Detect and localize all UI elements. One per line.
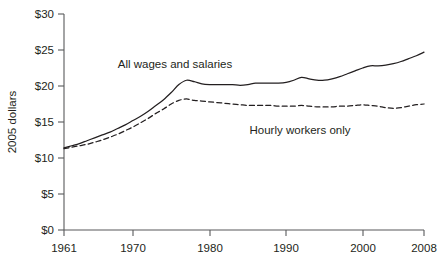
y-tick-label: $10 — [35, 152, 54, 164]
series-label-all-wages-and-salaries: All wages and salaries — [118, 58, 233, 70]
x-tick-label: 2008 — [411, 242, 437, 254]
y-tick-label: $20 — [35, 80, 54, 92]
x-tick-label: 1961 — [51, 242, 77, 254]
x-tick-label: 1970 — [120, 242, 146, 254]
series-annotations: All wages and salaries Hourly workers on… — [118, 58, 351, 136]
x-axis-tick-labels: 1961 1970 1980 1990 2000 2008 — [51, 242, 437, 254]
x-tick-label: 1990 — [273, 242, 299, 254]
y-tick-label: $25 — [35, 44, 54, 56]
line-chart: $30 $25 $20 $15 $10 $5 $0 2005 dollars — [0, 0, 446, 264]
y-axis-tick-labels: $30 $25 $20 $15 $10 $5 $0 — [35, 8, 54, 236]
y-tick-label: $15 — [35, 116, 54, 128]
y-axis-title: 2005 dollars — [6, 90, 18, 153]
y-tick-label: $30 — [35, 8, 54, 20]
x-tick-label: 2000 — [350, 242, 376, 254]
x-axis: 1961 1970 1980 1990 2000 2008 — [51, 230, 437, 254]
y-axis: $30 $25 $20 $15 $10 $5 $0 2005 dollars — [6, 8, 64, 236]
y-tick-label: $5 — [41, 188, 54, 200]
series-line-hourly-workers-only — [64, 99, 424, 149]
x-axis-ticks — [64, 230, 424, 236]
series-label-hourly-workers-only: Hourly workers only — [250, 124, 351, 136]
x-tick-label: 1980 — [197, 242, 223, 254]
chart-container: $30 $25 $20 $15 $10 $5 $0 2005 dollars — [0, 0, 446, 264]
y-tick-label: $0 — [41, 224, 54, 236]
y-axis-ticks — [58, 14, 64, 230]
